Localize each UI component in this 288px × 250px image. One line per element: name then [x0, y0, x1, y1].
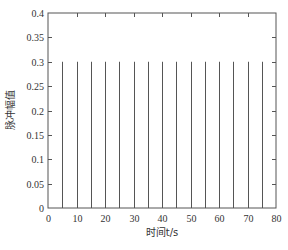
x-tick-label: 80 — [272, 213, 282, 224]
x-tick-label: 10 — [73, 213, 83, 224]
x-tick-label: 20 — [101, 213, 111, 224]
y-tick-label: 0.25 — [27, 81, 45, 92]
y-tick-label: 0.3 — [32, 57, 45, 68]
y-tick-label: 0.15 — [27, 130, 45, 141]
pulse-series — [63, 62, 263, 208]
x-tick-label: 50 — [187, 213, 197, 224]
x-axis-label: 时间t/s — [146, 226, 179, 238]
x-tick-label: 40 — [158, 213, 168, 224]
y-axis-ticks: 00.050.10.150.20.250.30.350.4 — [27, 8, 277, 214]
x-tick-label: 60 — [215, 213, 225, 224]
x-tick-label: 70 — [244, 213, 254, 224]
y-tick-label: 0.35 — [27, 32, 45, 43]
x-tick-label: 0 — [46, 213, 51, 224]
y-tick-label: 0.1 — [32, 154, 45, 165]
y-tick-label: 0.05 — [27, 179, 45, 190]
x-axis-ticks: 01020304050607080 — [46, 13, 282, 224]
y-axis-label: 脉冲幅值 — [4, 90, 16, 130]
pulse-chart: 01020304050607080 00.050.10.150.20.250.3… — [0, 0, 288, 250]
y-tick-label: 0 — [39, 203, 44, 214]
y-tick-label: 0.2 — [32, 106, 45, 117]
y-tick-label: 0.4 — [32, 8, 45, 19]
x-tick-label: 30 — [130, 213, 140, 224]
